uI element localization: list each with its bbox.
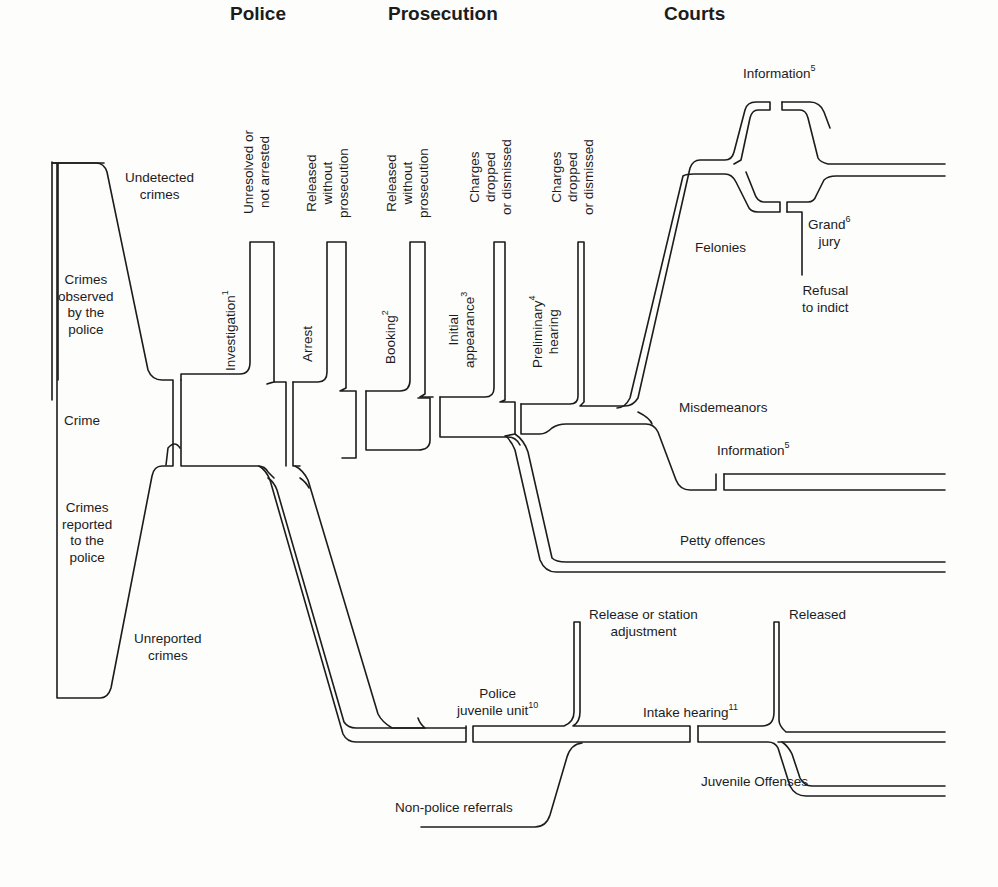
flow-diagram — [0, 0, 998, 887]
label-intake-hearing: Intake hearing11 — [643, 705, 738, 722]
label-crimes-reported: Crimesreported to thepolice — [62, 500, 112, 566]
label-released-1: Releasedwithoutprosecution — [304, 148, 352, 218]
label-information-mid: Information5 — [717, 443, 790, 460]
label-preliminary-hearing: Preliminary4 hearing — [530, 295, 562, 368]
label-juvenile-offenses: Juvenile Offenses — [701, 774, 808, 791]
label-felonies: Felonies — [695, 240, 746, 257]
label-charges-dropped-2: Chargesdroppedor dismissed — [549, 139, 597, 215]
label-release-station-adjustment: Release or stationadjustment — [589, 607, 698, 640]
label-misdemeanors: Misdemeanors — [679, 400, 768, 417]
label-crime: Crime — [64, 413, 100, 430]
label-arrest: Arrest — [300, 326, 316, 362]
label-unresolved: Unresolved ornot arrested — [241, 130, 273, 214]
label-investigation: Investigation1 — [223, 290, 239, 371]
label-non-police-referrals: Non-police referrals — [395, 800, 513, 817]
label-police-juvenile-unit: Police juvenile unit10 — [457, 686, 538, 719]
label-charges-dropped-1: Chargesdroppedor dismissed — [467, 139, 515, 215]
label-refusal-to-indict: Refusalto indict — [802, 283, 849, 316]
label-crimes-observed: Crimesobserved by thepolice — [58, 272, 114, 338]
label-initial-appearance: Initial appearance3 — [446, 292, 478, 368]
label-petty-offences: Petty offences — [680, 533, 765, 550]
label-released-juvenile: Released — [789, 607, 846, 624]
label-released-2: Releasedwithoutprosecution — [384, 148, 432, 218]
label-grand-jury: Grand6 jury — [808, 217, 851, 250]
label-undetected-crimes: Undetectedcrimes — [125, 170, 194, 203]
label-unreported-crimes: Unreportedcrimes — [134, 631, 202, 664]
label-booking: Booking2 — [383, 310, 399, 364]
label-information-top: Information5 — [743, 66, 816, 83]
